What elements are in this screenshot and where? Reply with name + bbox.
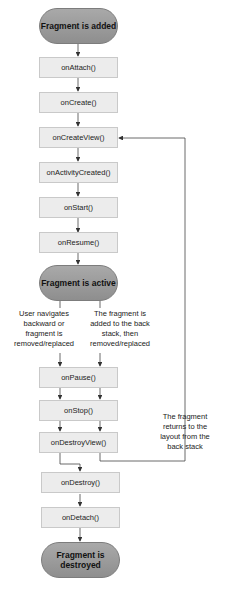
callback-oncreateview: onCreateView() bbox=[39, 127, 118, 148]
callback-label: onCreate() bbox=[61, 98, 97, 107]
callback-label: onPause() bbox=[61, 373, 96, 382]
callback-label: onDestroyView() bbox=[51, 438, 106, 447]
note-right-branch: The fragment is added to the back stack,… bbox=[84, 309, 156, 349]
note-line: layout from the bbox=[154, 432, 216, 442]
note-line: added to the back bbox=[84, 319, 156, 329]
callback-onstop: onStop() bbox=[39, 400, 118, 421]
note-line: fragment is bbox=[10, 329, 78, 339]
note-line: returns to the bbox=[154, 422, 216, 432]
note-line: The fragment bbox=[154, 412, 216, 422]
callback-onresume: onResume() bbox=[39, 232, 118, 253]
callback-onstart: onStart() bbox=[39, 197, 118, 218]
note-line: backward or bbox=[10, 319, 78, 329]
callback-label: onCreateView() bbox=[53, 133, 105, 142]
note-line: The fragment is bbox=[84, 309, 156, 319]
callback-ondetach: onDetach() bbox=[41, 507, 120, 528]
callback-label: onStop() bbox=[64, 406, 93, 415]
callback-label: onStart() bbox=[64, 203, 93, 212]
arrow-ondestroyview-to-ondestroy bbox=[60, 453, 80, 471]
callback-label: onResume() bbox=[58, 238, 99, 247]
callback-onactivitycreated: onActivityCreated() bbox=[39, 162, 118, 183]
callback-label: onAttach() bbox=[61, 63, 96, 72]
note-line: removed/replaced bbox=[10, 339, 78, 349]
state-fragment-destroyed: Fragment is destroyed bbox=[41, 542, 120, 578]
callback-ondestroyview: onDestroyView() bbox=[39, 432, 118, 453]
note-left-branch: User navigates backward or fragment is r… bbox=[10, 309, 78, 349]
state-label: Fragment is destroyed bbox=[42, 550, 119, 570]
note-line: User navigates bbox=[10, 309, 78, 319]
callback-onpause: onPause() bbox=[39, 367, 118, 388]
callback-label: onActivityCreated() bbox=[47, 168, 111, 177]
callback-label: onDetach() bbox=[62, 513, 99, 522]
callback-label: onDestroy() bbox=[61, 478, 100, 487]
state-label: Fragment is active bbox=[41, 278, 116, 288]
note-line: back stack bbox=[154, 442, 216, 452]
state-label: Fragment is added bbox=[41, 21, 117, 31]
note-return-to-layout: The fragment returns to the layout from … bbox=[154, 412, 216, 452]
callback-ondestroy: onDestroy() bbox=[41, 472, 120, 493]
note-line: removed/replaced bbox=[84, 339, 156, 349]
note-line: stack, then bbox=[84, 329, 156, 339]
state-fragment-added: Fragment is added bbox=[39, 8, 118, 44]
state-fragment-active: Fragment is active bbox=[39, 265, 118, 301]
callback-onattach: onAttach() bbox=[39, 57, 118, 78]
callback-oncreate: onCreate() bbox=[39, 92, 118, 113]
